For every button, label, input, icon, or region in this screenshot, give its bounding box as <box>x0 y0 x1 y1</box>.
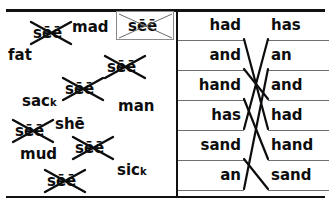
bank-word-label: mad <box>72 18 109 36</box>
bank-word-subscript: k <box>140 166 147 177</box>
match-left-label: sand <box>178 134 244 156</box>
match-row: had has <box>176 14 331 41</box>
bank-word-sack[interactable]: sack <box>22 92 57 110</box>
bank-word-fat[interactable]: fat <box>8 46 32 64</box>
match-left-item-2[interactable]: hand <box>178 74 244 101</box>
bank-word-mad[interactable]: mad <box>72 18 109 36</box>
match-right-item-3[interactable]: had <box>268 104 329 131</box>
match-row: and an <box>176 44 331 71</box>
crossed-word-see-4[interactable]: sēē <box>10 118 56 144</box>
match-right-item-5[interactable]: sand <box>268 164 329 191</box>
bank-word-label: fat <box>8 46 32 64</box>
bank-word-label: man <box>118 97 154 115</box>
bank-word-label: mu <box>20 145 46 163</box>
worksheet-page: mad fat sack man shē mud sick sēē <box>0 0 331 203</box>
bank-word-macron-vowel: ē <box>75 115 85 133</box>
match-row: sand hand <box>176 134 331 161</box>
bank-word-label: sac <box>22 92 50 110</box>
match-left-label: had <box>178 14 244 36</box>
match-right-item-2[interactable]: and <box>268 74 329 101</box>
cross-out-x-icon <box>70 135 116 161</box>
match-right-label: an <box>268 44 329 66</box>
crossed-word-see-6[interactable]: sēē <box>42 168 88 194</box>
crossed-word-see-3[interactable]: sēē <box>60 76 106 102</box>
match-left-label: hand <box>178 74 244 96</box>
match-right-item-4[interactable]: hand <box>268 134 329 161</box>
matching-panel: had has and an hand and has <box>176 0 331 203</box>
bank-word-tail: d <box>46 145 57 163</box>
match-row: an sand <box>176 164 331 191</box>
match-left-item-0[interactable]: had <box>178 14 244 41</box>
match-left-item-3[interactable]: has <box>178 104 244 131</box>
bank-word-man[interactable]: man <box>118 97 154 115</box>
cross-out-x-icon <box>10 118 56 144</box>
match-right-item-0[interactable]: has <box>268 14 329 41</box>
bank-word-sick[interactable]: sick <box>117 161 147 179</box>
cross-out-x-icon <box>117 12 174 40</box>
match-right-label: sand <box>268 164 329 186</box>
match-right-item-1[interactable]: an <box>268 44 329 71</box>
match-left-label: an <box>178 164 244 186</box>
bank-word-mud[interactable]: mud <box>20 145 57 163</box>
cross-out-x-icon <box>28 20 74 46</box>
cross-out-x-icon <box>60 76 106 102</box>
match-right-label: hand <box>268 134 329 156</box>
match-right-label: had <box>268 104 329 126</box>
match-row: has had <box>176 104 331 131</box>
bank-word-subscript: k <box>50 97 57 108</box>
crossed-word-see-5[interactable]: sēē <box>70 135 116 161</box>
crossed-word-see-2[interactable]: sēē <box>102 54 148 80</box>
boxed-crossed-word-see[interactable]: sēē <box>116 11 174 40</box>
bank-word-label: sic <box>117 161 140 179</box>
bank-word-label: sh <box>55 115 75 133</box>
match-left-item-4[interactable]: sand <box>178 134 244 161</box>
bank-word-she[interactable]: shē <box>55 115 85 133</box>
match-right-label: and <box>268 74 329 96</box>
match-row: hand and <box>176 74 331 101</box>
match-left-label: has <box>178 104 244 126</box>
crossed-word-see-1[interactable]: sēē <box>28 20 74 46</box>
cross-out-x-icon <box>102 54 148 80</box>
match-right-label: has <box>268 14 329 36</box>
match-left-item-5[interactable]: an <box>178 164 244 191</box>
match-left-label: and <box>178 44 244 66</box>
match-left-item-1[interactable]: and <box>178 44 244 71</box>
cross-out-x-icon <box>42 168 88 194</box>
word-bank-panel: mad fat sack man shē mud sick sēē <box>0 0 176 203</box>
